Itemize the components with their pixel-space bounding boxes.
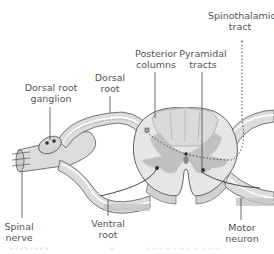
label-line-2: root (92, 83, 128, 94)
label-line-2: tract (208, 21, 272, 32)
label-spinothalamic-tract: Spinothalamic tract (208, 10, 272, 32)
cropped-caption-remnant (10, 247, 260, 250)
label-line-1: Dorsal root (20, 82, 82, 93)
label-line-2: columns (130, 59, 182, 70)
label-line-2: nerve (0, 232, 38, 243)
label-dorsal-root: Dorsal root (92, 72, 128, 94)
ventral-root (58, 160, 150, 213)
label-line-2: tracts (179, 59, 227, 70)
label-posterior-columns: Posterior columns (130, 48, 182, 70)
label-line-2: root (88, 229, 128, 240)
label-line-1: Pyramidal (179, 48, 227, 59)
spinal-cord-diagram: Spinothalamic tract Posterior columns Py… (0, 0, 274, 254)
diagram-artwork (0, 0, 274, 254)
label-line-1: Spinothalamic (208, 10, 272, 21)
label-line-1: Dorsal (92, 72, 128, 83)
label-line-1: Motor (220, 222, 264, 233)
label-dorsal-root-ganglion: Dorsal root ganglion (20, 82, 82, 104)
label-pyramidal-tracts: Pyramidal tracts (179, 48, 227, 70)
label-line-2: neuron (220, 233, 264, 244)
right-ventral-root (224, 172, 274, 206)
label-line-1: Ventral (88, 218, 128, 229)
label-line-1: Posterior (130, 48, 182, 59)
label-line-2: ganglion (20, 93, 82, 104)
label-line-1: Spinal (0, 221, 38, 232)
label-spinal-nerve: Spinal nerve (0, 221, 38, 243)
label-motor-neuron: Motor neuron (220, 222, 264, 244)
label-ventral-root: Ventral root (88, 218, 128, 240)
